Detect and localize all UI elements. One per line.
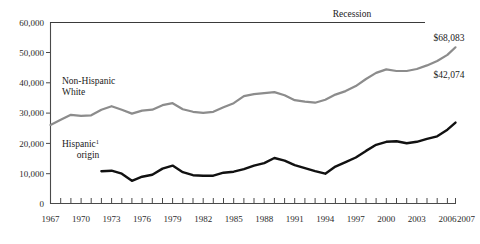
x-tick-label: 1997 [347,214,366,224]
x-tick-label: 1967 [42,214,61,224]
y-tick-label: 60,000 [19,18,44,28]
series-path-hispanic-origin [101,123,455,181]
chart-canvas: 60,000 50,000 40,000 30,000 20,000 10,00… [0,0,480,244]
y-tick-label: 20,000 [19,139,44,149]
x-tick-label: 1988 [255,214,274,224]
x-tick-label: 1976 [133,214,152,224]
series-label-line-2: origin [77,150,100,160]
y-tick-label: 50,000 [19,48,44,58]
x-tick-label: 1979 [164,214,183,224]
footnote-marker: 1 [96,138,99,145]
x-tick-label: 2003 [408,214,427,224]
y-axis-tick-labels: 60,000 50,000 40,000 30,000 20,000 10,00… [19,18,44,210]
series-label-text: Hispanic [62,139,96,149]
x-tick-label: 1970 [72,214,91,224]
x-tick-label: 1985 [225,214,244,224]
x-tick-label: 1973 [103,214,122,224]
endpoint-label-non-hispanic-white: $68,083 [434,33,465,43]
series-path-non-hispanic-white [51,47,456,125]
series-label-line-1: Hispanic1 [62,138,99,150]
series-label-non-hispanic-white: Non-Hispanic White [62,76,115,97]
endpoint-label-hispanic-origin: $42,074 [434,70,465,80]
x-axis-tick-labels: 1967 1970 1973 1976 1979 1982 1985 1988 … [42,214,476,224]
y-tick-label: 30,000 [19,108,44,118]
x-tick-label: 2006 [438,214,457,224]
x-tick-label: 2007 [457,214,476,224]
x-axis-ticks [51,198,456,204]
series-label-line-1: Non-Hispanic [62,76,115,86]
series-label-line-2: White [62,87,85,97]
x-tick-label: 1994 [316,214,335,224]
income-trend-chart: 60,000 50,000 40,000 30,000 20,000 10,00… [0,0,480,244]
x-tick-label: 1982 [194,214,212,224]
recession-label: Recession [333,9,372,19]
y-tick-label: 10,000 [19,169,44,179]
series-label-hispanic-origin: Hispanic1 origin [62,138,100,161]
x-tick-label: 2000 [377,214,396,224]
y-tick-label: 0 [40,199,45,209]
y-tick-label: 40,000 [19,78,44,88]
y-axis-ticks [46,53,50,174]
x-tick-label: 1991 [286,214,304,224]
